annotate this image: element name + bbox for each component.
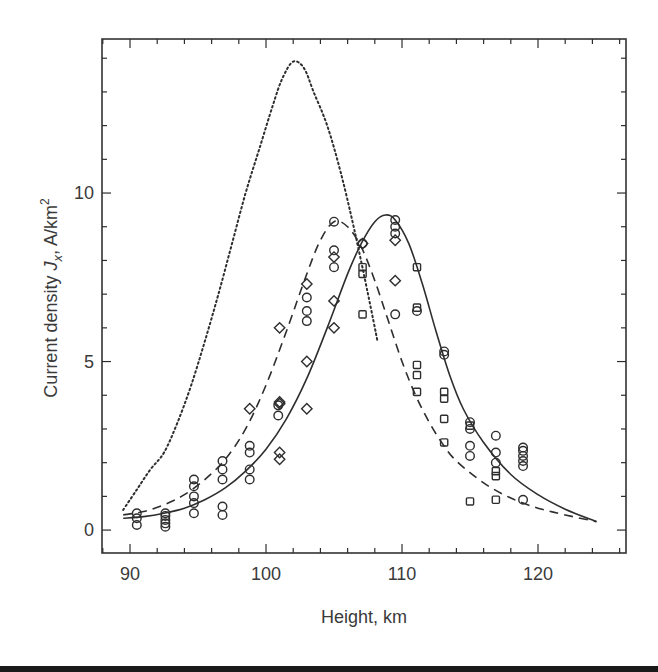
- x-tick-label: 90: [120, 564, 140, 584]
- x-tick-label: 110: [388, 564, 417, 584]
- diamond-marker: [302, 279, 312, 289]
- circle-marker: [218, 511, 227, 520]
- circle-marker: [391, 310, 400, 319]
- data-markers: [133, 216, 528, 531]
- square-marker: [492, 467, 499, 474]
- y-axis-label: Current density Jx, A/km2: [38, 198, 65, 398]
- square-marker: [413, 361, 420, 368]
- diamond-marker: [244, 404, 254, 414]
- square-marker: [441, 415, 448, 422]
- y-axis-label-unit: , A/km: [41, 205, 61, 255]
- circle-marker: [245, 475, 254, 484]
- circle-marker: [218, 457, 227, 466]
- diamond-marker: [329, 323, 339, 333]
- x-tick-label: 120: [523, 564, 553, 584]
- diamond-marker: [390, 275, 400, 285]
- circle-marker: [190, 509, 199, 518]
- square-marker: [466, 498, 473, 505]
- y-axis-label-superscript: 2: [38, 198, 52, 205]
- circle-marker: [492, 448, 501, 457]
- y-tick-label: 10: [74, 183, 94, 203]
- circle-marker: [218, 465, 227, 474]
- circle-marker: [218, 502, 227, 511]
- square-marker: [359, 311, 366, 318]
- dashed-model-curve: [123, 221, 596, 522]
- square-marker: [413, 371, 420, 378]
- diamond-marker: [302, 356, 312, 366]
- circle-marker: [466, 452, 475, 461]
- y-tick-label: 0: [84, 520, 94, 540]
- circle-marker: [303, 317, 312, 326]
- plot-frame: [102, 39, 626, 553]
- diamond-marker: [274, 447, 284, 457]
- circle-marker: [466, 442, 475, 451]
- circle-marker: [492, 431, 501, 440]
- y-tick-label: 5: [84, 352, 94, 372]
- axis-ticks: [102, 39, 626, 553]
- diamond-marker: [274, 454, 284, 464]
- square-marker: [492, 496, 499, 503]
- bottom-border-bar: [0, 666, 658, 672]
- dotted-model-curve: [123, 61, 377, 510]
- x-axis-label: Height, km: [321, 607, 407, 627]
- square-marker: [492, 473, 499, 480]
- axes-box: [102, 39, 626, 553]
- circle-marker: [218, 475, 227, 484]
- axis-tick-labels: 901001101200510: [74, 183, 553, 584]
- circle-marker: [330, 246, 339, 255]
- circle-marker: [303, 307, 312, 316]
- circle-marker: [133, 509, 142, 518]
- circle-marker: [303, 293, 312, 302]
- y-axis-label-prefix: Current density: [41, 271, 61, 398]
- x-tick-label: 100: [251, 564, 281, 584]
- circle-marker: [274, 411, 283, 420]
- diamond-marker: [274, 323, 284, 333]
- circle-marker: [330, 263, 339, 272]
- diamond-marker: [302, 404, 312, 414]
- current-density-chart: 901001101200510 Height, km Current densi…: [0, 0, 658, 672]
